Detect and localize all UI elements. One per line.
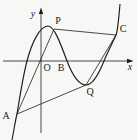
origin-label: O	[43, 62, 50, 73]
segment-cq	[86, 35, 116, 85]
point-c-label: C	[120, 23, 127, 34]
cubic-graph-canvas: y x O B A P C Q	[0, 0, 137, 140]
x-axis-label: x	[127, 61, 133, 72]
point-a-label: A	[2, 110, 10, 121]
y-axis-arrow-icon	[39, 8, 43, 15]
segment-pc	[54, 29, 116, 35]
point-q-label: Q	[86, 86, 94, 97]
cubic-curve	[12, 4, 120, 140]
point-b-label: B	[58, 62, 65, 73]
y-axis-label: y	[30, 8, 36, 19]
point-p-label: P	[55, 15, 61, 26]
math-figure: y x O B A P C Q	[0, 0, 137, 140]
